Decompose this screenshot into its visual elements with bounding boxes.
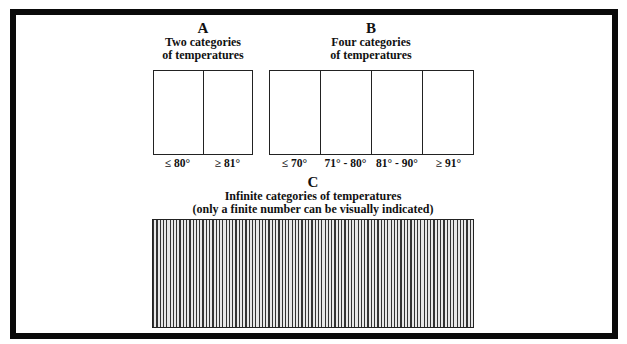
panel-b-cell: [372, 71, 423, 154]
panel-b-cell: [270, 71, 321, 154]
panel-c-line2: (only a finite number can be visually in…: [153, 203, 473, 216]
panel-b-label: 71° - 80°: [320, 157, 371, 169]
panel-a-heading: A Two categories of temperatures: [143, 20, 263, 62]
panel-c-striped-box: [152, 219, 474, 328]
panel-b-letter: B: [311, 20, 431, 36]
panel-b-label: ≥ 91°: [423, 157, 474, 169]
panel-b-label: ≤ 70°: [269, 157, 320, 169]
panel-a-label: ≥ 81°: [202, 157, 253, 169]
panel-b-heading: B Four categories of temperatures: [311, 20, 431, 62]
panel-a-cell: [204, 71, 253, 154]
panel-a-box: [153, 70, 253, 155]
panel-b-cell: [423, 71, 473, 154]
panel-b-label: 81° - 90°: [371, 157, 423, 169]
panel-b-line2: of temperatures: [311, 49, 431, 62]
panel-b-cell: [321, 71, 372, 154]
panel-a-line2: of temperatures: [143, 49, 263, 62]
panel-c-letter: C: [153, 174, 473, 190]
panel-a-label: ≤ 80°: [153, 157, 202, 169]
panel-b-box: [269, 70, 474, 155]
panel-a-letter: A: [143, 20, 263, 36]
panel-c-heading: C Infinite categories of temperatures (o…: [153, 174, 473, 216]
panel-a-cell: [154, 71, 204, 154]
